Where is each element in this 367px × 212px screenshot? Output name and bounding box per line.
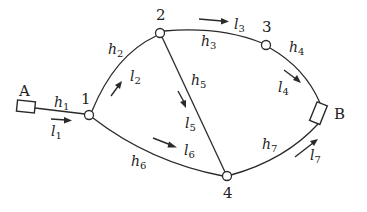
label-h4: h4 [289, 39, 304, 57]
terminal-B-box [310, 102, 328, 125]
label-h7: h7 [262, 136, 277, 154]
node-4-label: 4 [223, 184, 233, 202]
label-l7: l7 [310, 147, 321, 165]
label-l5: l5 [185, 115, 196, 133]
arrow-l6-icon [153, 138, 177, 148]
node-1 [85, 111, 94, 120]
label-h5: h5 [191, 72, 206, 90]
arrow-l5-icon [178, 91, 186, 108]
label-l3: l3 [234, 16, 245, 34]
terminal-B-label: B [334, 105, 345, 123]
node-3 [262, 41, 271, 50]
arrow-l3-icon [199, 18, 229, 25]
edge-1-2 [92, 36, 156, 111]
node-1-label: 1 [81, 90, 91, 108]
arrow-l2-icon [111, 81, 122, 96]
label-h1: h1 [54, 94, 69, 112]
node-3-label: 3 [262, 18, 272, 36]
label-l4: l4 [278, 79, 289, 97]
node-4 [223, 172, 232, 181]
label-h6: h6 [131, 153, 146, 171]
label-l2: l2 [130, 68, 141, 86]
label-h2: h2 [108, 41, 123, 59]
node-2 [156, 29, 165, 38]
terminal-A-label: A [18, 82, 30, 100]
label-h3: h3 [201, 33, 216, 51]
arrow-l4-icon [284, 70, 301, 83]
terminal-A-box [16, 100, 35, 113]
label-l6: l6 [184, 142, 195, 160]
network-diagram: A B 1 2 3 4 h1 h2 h3 h4 h5 h6 h7 l1 l2 l… [0, 0, 367, 212]
node-2-label: 2 [156, 6, 166, 24]
label-l1: l1 [51, 123, 62, 141]
